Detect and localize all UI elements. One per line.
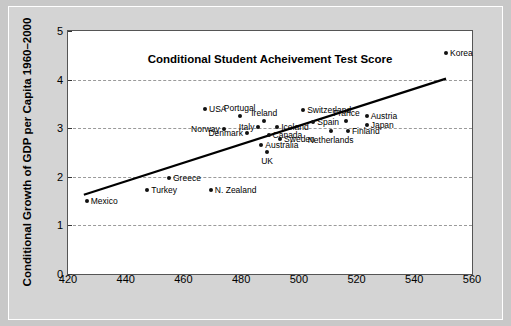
data-point bbox=[209, 188, 213, 192]
x-tick-label-420: 420 bbox=[48, 274, 88, 285]
data-point-label: Spain bbox=[317, 118, 339, 127]
y-axis-title-text: Conditional Growth of GDP per Capita 196… bbox=[21, 17, 33, 286]
y-tick-mark-1 bbox=[68, 225, 72, 226]
data-point-label: Turkey bbox=[151, 186, 177, 195]
trendline bbox=[68, 31, 472, 274]
data-point bbox=[365, 114, 369, 118]
data-point-label: N. Zealand bbox=[215, 186, 257, 195]
y-tick-label-5: 5 bbox=[41, 26, 63, 37]
gridline-y-2 bbox=[68, 177, 472, 178]
data-point bbox=[346, 129, 350, 133]
y-tick-mark-2 bbox=[68, 177, 72, 178]
x-tick-label-500: 500 bbox=[279, 274, 319, 285]
data-point bbox=[145, 188, 149, 192]
data-point-label: UK bbox=[261, 157, 273, 166]
data-point bbox=[259, 143, 263, 147]
y-axis-title: Conditional Growth of GDP per Capita 196… bbox=[19, 30, 35, 273]
gridline-y-1 bbox=[68, 225, 472, 226]
x-tick-label-560: 560 bbox=[452, 274, 492, 285]
x-tick-label-520: 520 bbox=[337, 274, 377, 285]
data-point bbox=[265, 150, 269, 154]
x-axis-title: Conditional Student Acheivement Test Sco… bbox=[68, 53, 472, 65]
y-tick-label-3: 3 bbox=[41, 123, 63, 134]
plot-area: 012345 420440460480500520540560 MexicoTu… bbox=[67, 30, 473, 275]
gridline-y-3 bbox=[68, 128, 472, 129]
x-tick-label-460: 460 bbox=[163, 274, 203, 285]
y-tick-mark-5 bbox=[68, 31, 72, 32]
data-point-label: Denmark bbox=[208, 129, 242, 138]
data-point bbox=[329, 129, 333, 133]
data-point-label: Japan bbox=[371, 121, 394, 130]
y-tick-label-1: 1 bbox=[41, 220, 63, 231]
figure-panel: 012345 420440460480500520540560 MexicoTu… bbox=[8, 6, 503, 320]
data-point-label: France bbox=[333, 109, 359, 118]
y-tick-mark-4 bbox=[68, 80, 72, 81]
x-tick-label-480: 480 bbox=[221, 274, 261, 285]
data-point bbox=[365, 123, 369, 127]
data-point-label: Netherlands bbox=[308, 136, 354, 145]
data-point-label: Mexico bbox=[91, 197, 118, 206]
data-point bbox=[275, 125, 279, 129]
data-point-label: Italy bbox=[239, 123, 255, 132]
data-point bbox=[203, 107, 207, 111]
gridline-y-4 bbox=[68, 80, 472, 81]
data-point bbox=[278, 137, 282, 141]
data-point bbox=[85, 199, 89, 203]
y-tick-mark-3 bbox=[68, 128, 72, 129]
data-point bbox=[311, 120, 315, 124]
data-point-label: Greece bbox=[173, 174, 201, 183]
data-point-label: Ireland bbox=[251, 109, 277, 118]
data-point bbox=[238, 114, 242, 118]
data-point bbox=[301, 108, 305, 112]
data-point bbox=[344, 119, 348, 123]
data-point bbox=[167, 176, 171, 180]
x-tick-label-540: 540 bbox=[394, 274, 434, 285]
y-tick-label-4: 4 bbox=[41, 74, 63, 85]
data-point bbox=[262, 119, 266, 123]
data-point-label: Iceland bbox=[281, 123, 308, 132]
x-tick-label-440: 440 bbox=[106, 274, 146, 285]
y-tick-label-2: 2 bbox=[41, 171, 63, 182]
data-point bbox=[267, 133, 271, 137]
